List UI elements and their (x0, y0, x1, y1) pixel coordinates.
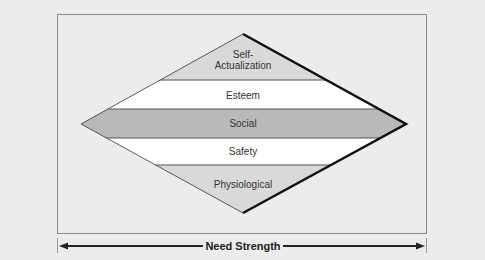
label-self-actualization-1: Self- (233, 49, 254, 60)
arrowhead-left-icon (59, 243, 68, 250)
arrowhead-right-icon (416, 243, 425, 250)
label-physiological: Physiological (214, 179, 272, 190)
need-strength-diagram: Self- Actualization Esteem Social Safety… (0, 0, 485, 260)
label-self-actualization-2: Actualization (215, 60, 272, 71)
label-social: Social (229, 118, 256, 129)
axis-label-need-strength: Need Strength (205, 240, 280, 252)
label-safety: Safety (229, 146, 257, 157)
label-esteem: Esteem (226, 90, 260, 101)
